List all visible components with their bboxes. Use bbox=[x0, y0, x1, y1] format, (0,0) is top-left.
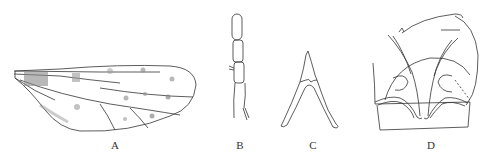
panel-a-wing-drawing bbox=[14, 65, 196, 131]
panel-d-genitalia-drawing bbox=[373, 14, 478, 130]
panel-label-b: B bbox=[236, 139, 243, 151]
figure-illustration bbox=[0, 0, 491, 156]
panel-label-c: C bbox=[309, 139, 316, 151]
panel-label-a: A bbox=[111, 139, 119, 151]
panel-c-sclerite-drawing bbox=[281, 51, 338, 128]
panel-label-d: D bbox=[427, 139, 435, 151]
panel-b-antenna-drawing bbox=[229, 14, 249, 120]
